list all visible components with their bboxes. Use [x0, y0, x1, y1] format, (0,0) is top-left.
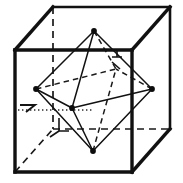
cube-edge-bottom-right-depth	[132, 129, 170, 172]
octahedron-hidden-edge-left-back	[36, 69, 116, 89]
octahedron-vertex-right	[149, 86, 155, 92]
arrowhead-marker-icon	[20, 105, 35, 112]
cube-edge-top-left-depth	[15, 7, 53, 50]
octahedron-edge-bottom-left	[36, 89, 93, 151]
octahedron-vertex-front	[69, 105, 75, 111]
octahedron-vertex-bottom	[90, 148, 96, 154]
cube-hidden-edge-back-left-depth	[15, 129, 53, 172]
octahedron-edge-left-front	[36, 89, 72, 108]
octahedron-edge-right-front	[72, 89, 152, 108]
octahedron-vertex-top	[91, 28, 97, 34]
octahedron-in-cube-figure: Regular octahedron inscribed in a cube L…	[0, 0, 183, 183]
cube-edge-top-right-depth	[132, 7, 170, 50]
figure-canvas: Regular octahedron inscribed in a cube L…	[0, 0, 183, 183]
octahedron-vertex-left	[33, 86, 39, 92]
